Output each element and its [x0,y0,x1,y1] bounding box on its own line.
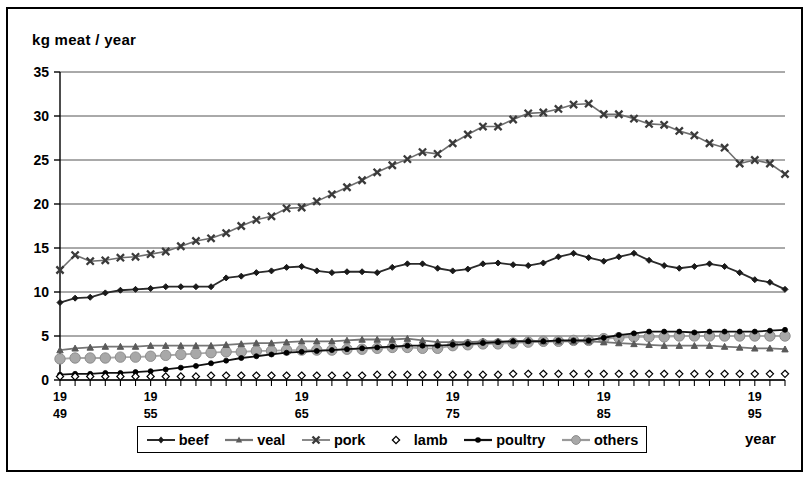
x-tick-label: 65 [295,407,309,421]
data-marker [751,370,758,377]
data-marker [313,372,320,379]
data-marker [207,372,214,379]
legend-item-veal[interactable]: veal [224,432,285,448]
data-marker [223,372,230,379]
data-marker [283,372,290,379]
data-marker [767,279,773,285]
legend-marker-beef-icon [146,433,176,447]
data-marker [691,370,698,377]
data-marker [662,329,667,334]
data-marker [630,370,637,377]
data-marker [314,348,319,353]
data-marker [781,170,788,177]
data-marker [389,162,396,169]
data-marker [600,370,607,377]
data-marker [450,342,455,347]
data-marker [57,300,63,306]
data-marker [526,339,531,344]
data-marker [147,373,154,380]
x-tick-label: 95 [748,407,762,421]
data-marker [783,327,788,332]
data-marker [586,338,591,343]
data-marker [221,347,231,357]
data-marker [631,250,637,256]
legend-label: beef [179,432,209,448]
data-marker [449,371,456,378]
data-marker [691,263,697,269]
y-tick-label: 25 [33,152,49,168]
data-marker [162,373,169,380]
data-marker [344,269,350,275]
data-marker [253,372,260,379]
chart-legend: beefvealporklambpoultryothers [137,426,647,453]
data-marker [494,371,501,378]
data-marker [449,140,456,147]
legend-label: others [594,432,638,448]
data-marker [193,284,199,290]
data-marker [540,260,546,266]
data-marker [223,229,230,236]
data-marker [661,263,667,269]
legend-item-poultry[interactable]: poultry [463,432,545,448]
data-marker [464,371,471,378]
data-marker [132,373,139,380]
x-tick-label: 19 [144,390,158,404]
data-marker [661,370,668,377]
x-tick-label: 85 [597,407,611,421]
data-marker [163,367,168,372]
data-marker [541,339,546,344]
data-marker [115,352,125,362]
data-marker [148,285,154,291]
data-marker [404,156,411,163]
data-marker [389,371,396,378]
data-marker [70,353,80,363]
legend-item-pork[interactable]: pork [301,432,365,448]
data-marker [766,370,773,377]
y-tick-label: 30 [33,108,49,124]
data-marker [631,331,636,336]
data-marker [177,373,184,380]
data-marker [540,370,547,377]
x-tick-label: 19 [748,390,762,404]
data-marker [329,348,334,353]
data-marker [511,339,516,344]
legend-marker-lamb-icon [381,433,411,447]
legend-marker-poultry-icon [463,433,493,447]
data-marker [480,261,486,267]
data-marker [133,286,139,292]
x-tick-label: 19 [53,390,67,404]
data-marker [707,329,712,334]
data-marker [238,222,245,229]
data-marker [737,270,743,276]
data-marker [419,371,426,378]
x-tick-label: 75 [446,407,460,421]
data-marker [344,347,349,352]
data-marker [269,352,274,357]
data-marker [389,264,395,270]
data-marker [374,169,381,176]
legend-marker-veal-icon [224,433,254,447]
legend-item-beef[interactable]: beef [146,432,209,448]
data-marker [358,372,365,379]
data-marker [616,333,621,338]
x-tick-label: 19 [597,390,611,404]
legend-item-lamb[interactable]: lamb [381,432,448,448]
data-marker [586,255,592,261]
data-marker [571,250,577,256]
chart-plot-area: 05101520253035194919551965197519851995 [0,0,812,486]
data-marker [556,338,561,343]
data-marker [450,268,456,274]
y-tick-label: 35 [33,64,49,80]
data-marker [706,370,713,377]
data-marker [161,350,171,360]
series-beef [57,250,788,305]
data-marker [329,270,335,276]
data-marker [328,191,335,198]
legend-label: pork [334,432,365,448]
data-marker [420,343,425,348]
legend-item-others[interactable]: others [561,432,638,448]
data-marker [253,270,259,276]
data-marker [465,341,470,346]
data-marker [510,370,517,377]
axes: 05101520253035194919551965197519851995 [33,64,785,421]
